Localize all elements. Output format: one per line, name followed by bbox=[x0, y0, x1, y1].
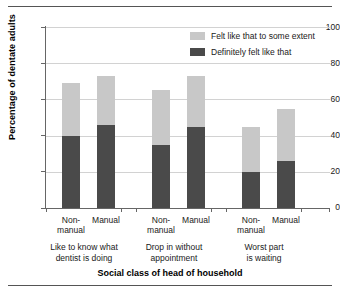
x-tick-mark-1 bbox=[46, 208, 47, 212]
gridline-80 bbox=[46, 63, 330, 64]
top-rule bbox=[8, 6, 332, 7]
bar-segment-some-extent bbox=[187, 76, 205, 127]
bar-segment-definitely bbox=[187, 127, 205, 208]
bar-segment-definitely bbox=[62, 136, 80, 208]
x-axis-title: Social class of head of household bbox=[0, 268, 340, 278]
bar-stack[interactable] bbox=[152, 90, 170, 208]
x-tick-label-line2: manual bbox=[49, 225, 93, 235]
legend-label-some-extent: Felt like that to some extent bbox=[211, 31, 315, 41]
bar-segment-some-extent bbox=[152, 90, 170, 144]
bottom-rule bbox=[8, 285, 332, 286]
y-axis-title: Percentage of dentate adults bbox=[7, 2, 17, 152]
x-tick-label-line1: Manual bbox=[84, 215, 128, 225]
x-group-label-3: Worst part is waiting bbox=[209, 242, 319, 263]
legend-item-definitely[interactable]: Definitely felt like that bbox=[190, 45, 336, 58]
x-tick-label-group3-manual: Manual bbox=[264, 215, 308, 225]
bar-segment-definitely bbox=[277, 161, 295, 208]
x-tick-mark-7 bbox=[329, 208, 330, 212]
bar-segment-some-extent bbox=[277, 109, 295, 162]
bar-stack[interactable] bbox=[62, 83, 80, 208]
legend-swatch-definitely bbox=[190, 48, 205, 56]
bar-stack[interactable] bbox=[187, 76, 205, 208]
x-group-label-line2: is waiting bbox=[209, 253, 319, 264]
x-tick-mark-2 bbox=[121, 208, 122, 212]
chart-legend: Felt like that to some extent Definitely… bbox=[190, 29, 336, 61]
bar-stack[interactable] bbox=[277, 109, 295, 209]
x-group-label-line1: Worst part bbox=[209, 242, 319, 253]
legend-label-definitely: Definitely felt like that bbox=[211, 47, 291, 57]
gridline-100 bbox=[46, 27, 330, 28]
x-tick-label-line2: manual bbox=[139, 225, 183, 235]
bar-stack[interactable] bbox=[97, 76, 115, 208]
legend-swatch-some-extent bbox=[190, 32, 205, 40]
x-tick-label-line2: manual bbox=[229, 225, 273, 235]
x-tick-mark-3 bbox=[136, 208, 137, 212]
x-tick-mark-4 bbox=[211, 208, 212, 212]
x-tick-mark-5 bbox=[226, 208, 227, 212]
bar-segment-some-extent bbox=[62, 83, 80, 136]
bar-segment-definitely bbox=[152, 145, 170, 208]
x-tick-label-group2-manual: Manual bbox=[174, 215, 218, 225]
bar-segment-definitely bbox=[97, 125, 115, 208]
legend-item-some-extent[interactable]: Felt like that to some extent bbox=[190, 29, 336, 42]
x-tick-label-line1: Manual bbox=[174, 215, 218, 225]
chart-figure: Percentage of dentate adults 100 80 60 4… bbox=[0, 0, 340, 295]
bar-segment-some-extent bbox=[242, 127, 260, 172]
x-tick-mark-6 bbox=[301, 208, 302, 212]
bar-stack[interactable] bbox=[242, 127, 260, 208]
x-tick-label-group1-manual: Manual bbox=[84, 215, 128, 225]
bar-segment-definitely bbox=[242, 172, 260, 208]
bar-segment-some-extent bbox=[97, 76, 115, 125]
x-tick-label-line1: Manual bbox=[264, 215, 308, 225]
x-axis-line bbox=[45, 208, 330, 209]
